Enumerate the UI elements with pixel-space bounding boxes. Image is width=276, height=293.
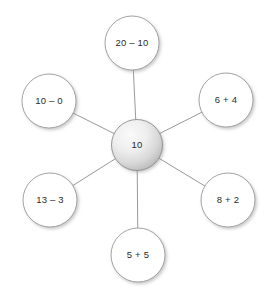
satellite-label-top: 20 – 10 [115, 37, 148, 48]
satellite-label-bottom: 5 + 5 [127, 249, 149, 260]
center-node-group: 10 [112, 120, 163, 171]
satellite-node-lower-left[interactable]: 13 – 3 [23, 173, 77, 227]
satellite-node-top[interactable]: 20 – 10 [105, 16, 159, 70]
spoke-line-bottom [137, 170, 138, 229]
spoke-line-top [133, 69, 135, 120]
satellite-label-upper-left: 10 – 0 [35, 95, 63, 106]
satellite-node-bottom[interactable]: 5 + 5 [111, 228, 165, 282]
satellite-node-upper-left[interactable]: 10 – 0 [22, 74, 76, 128]
spoke-line-upper-left [73, 113, 115, 134]
satellite-label-upper-right: 6 + 4 [215, 94, 237, 105]
satellite-label-lower-right: 8 + 2 [217, 194, 239, 205]
spoke-line-lower-right [158, 158, 205, 186]
satellite-node-lower-right[interactable]: 8 + 2 [201, 173, 255, 227]
satellite-node-upper-right[interactable]: 6 + 4 [199, 73, 253, 127]
center-label: 10 [132, 139, 143, 150]
spider-diagram-canvas: 20 – 106 + 48 + 25 + 513 – 310 – 0 10 [0, 0, 276, 293]
center-node[interactable]: 10 [112, 120, 163, 171]
spider-diagram-svg: 20 – 106 + 48 + 25 + 513 – 310 – 0 10 [0, 0, 276, 293]
satellite-label-lower-left: 13 – 3 [36, 194, 64, 205]
spoke-line-lower-left [72, 158, 115, 185]
spoke-line-upper-right [159, 112, 202, 134]
